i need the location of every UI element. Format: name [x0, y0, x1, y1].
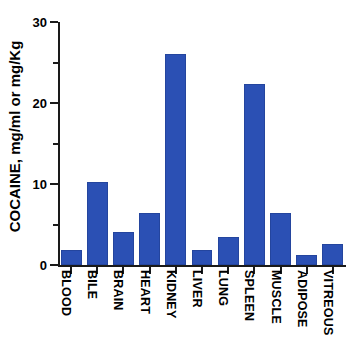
- y-tick-label-10: 10: [33, 178, 47, 191]
- category-label-lung: LUNG: [211, 270, 235, 358]
- bar-brain: [113, 232, 134, 265]
- plot-area: 0102030: [58, 22, 346, 265]
- bar-adipose: [296, 255, 317, 265]
- y-axis-title: COCAINE, mg/ml or mg/Kg: [0, 0, 30, 272]
- y-tick-30: [50, 21, 58, 23]
- bar-bile: [87, 182, 108, 265]
- category-label-kidney: KIDNEY: [159, 270, 183, 358]
- y-tick-10: [50, 183, 58, 185]
- bar-kidney: [165, 54, 186, 265]
- bar-heart: [139, 213, 160, 265]
- category-label-bile: BILE: [80, 270, 104, 358]
- category-label-muscle: MUSCLE: [264, 270, 288, 358]
- y-tick-label-20: 20: [33, 97, 47, 110]
- category-label-spleen: SPLEEN: [237, 270, 261, 358]
- y-tick-0: [50, 264, 58, 266]
- category-label-heart: HEART: [133, 270, 157, 358]
- y-tick-label-0: 0: [40, 259, 47, 272]
- category-label-brain: BRAIN: [106, 270, 130, 358]
- y-axis-line: [58, 22, 60, 265]
- y-minor-tick-25: [53, 62, 58, 64]
- bar-vitreous: [322, 244, 343, 265]
- category-label-adipose: ADIPOSE: [290, 270, 314, 358]
- y-tick-label-30: 30: [33, 16, 47, 29]
- y-minor-tick-15: [53, 143, 58, 145]
- y-minor-tick-5: [53, 224, 58, 226]
- bar-blood: [61, 250, 82, 265]
- bar-liver: [192, 250, 213, 265]
- category-label-vitreous: VITREOUS: [316, 270, 340, 358]
- bar-muscle: [270, 213, 291, 265]
- y-axis-title-text: COCAINE, mg/ml or mg/Kg: [8, 40, 23, 232]
- category-label-liver: LIVER: [185, 270, 209, 358]
- x-axis-category-labels: BLOODBILEBRAINHEARTKIDNEYLIVERLUNGSPLEEN…: [58, 270, 346, 358]
- bar-chart: COCAINE, mg/ml or mg/Kg 0102030 BLOODBIL…: [0, 0, 355, 360]
- category-label-blood: BLOOD: [54, 270, 78, 358]
- y-tick-20: [50, 102, 58, 104]
- bar-lung: [218, 237, 239, 265]
- bar-spleen: [244, 84, 265, 265]
